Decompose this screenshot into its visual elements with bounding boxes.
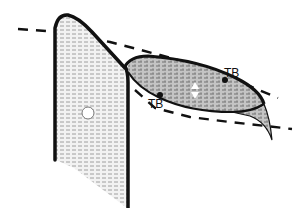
tb-lower-label: TB: [148, 97, 163, 111]
open-circle-marker: [82, 107, 94, 119]
tb-upper-label: TB: [224, 66, 239, 80]
diagram: TB TB: [0, 0, 308, 218]
